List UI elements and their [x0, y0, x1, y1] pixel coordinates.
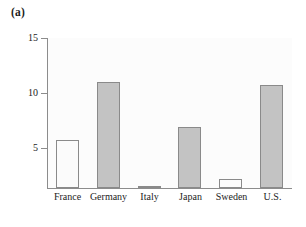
- bar-italy: [138, 186, 161, 188]
- x-axis-line: [47, 188, 292, 189]
- panel-label: (a): [11, 7, 25, 19]
- x-label-japan: Japan: [170, 192, 211, 202]
- y-tick-label-10: 10: [16, 88, 38, 98]
- bar-germany: [97, 82, 120, 188]
- x-label-france: France: [47, 192, 88, 202]
- bar-group: [47, 38, 292, 188]
- x-label-us: U.S.: [252, 192, 293, 202]
- x-label-germany: Germany: [88, 192, 129, 202]
- x-label-sweden: Sweden: [211, 192, 252, 202]
- bar-us: [260, 85, 283, 188]
- y-tick-label-5: 5: [16, 143, 38, 153]
- bar-france: [56, 140, 79, 188]
- bar-japan: [178, 127, 201, 188]
- x-label-italy: Italy: [129, 192, 170, 202]
- y-tick-label-15: 15: [16, 33, 38, 43]
- bar-sweden: [219, 179, 242, 188]
- figure-panel-a: (a) 15 10 5 France Germany Italy Japan S…: [0, 0, 306, 227]
